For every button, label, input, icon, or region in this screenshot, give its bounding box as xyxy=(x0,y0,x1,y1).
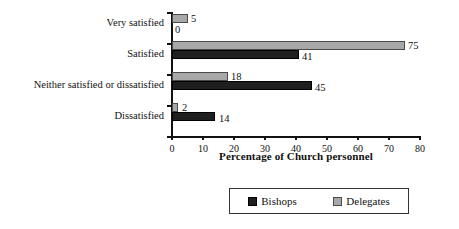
x-axis-title: Percentage of Church personnel xyxy=(172,150,420,162)
x-axis-tick xyxy=(357,136,359,140)
x-axis-tick xyxy=(326,136,328,140)
x-axis-tick xyxy=(295,136,297,140)
plot-area: 5 0 75 41 18 45 2 14 0 10 20 30 40 50 60… xyxy=(172,12,420,136)
chart-legend: Bishops Delegates xyxy=(229,188,409,214)
legend-label-bishops: Bishops xyxy=(261,195,296,207)
category-axis-labels: Very satisfied Satisfied Neither satisfi… xyxy=(0,12,168,136)
category-label-very-satisfied: Very satisfied xyxy=(107,17,164,28)
bar-value-bishops-dissatisfied: 14 xyxy=(219,114,230,124)
bar-bishops-neither xyxy=(172,81,312,90)
bar-delegates-neither xyxy=(172,72,228,81)
bar-bishops-dissatisfied xyxy=(172,112,215,121)
x-axis-tick xyxy=(388,136,390,140)
bar-value-delegates-satisfied: 75 xyxy=(408,41,419,51)
x-axis-tick xyxy=(264,136,266,140)
satisfaction-bar-chart: Very satisfied Satisfied Neither satisfi… xyxy=(0,0,459,229)
bar-bishops-satisfied xyxy=(172,50,299,59)
category-label-neither: Neither satisfied or dissatisfied xyxy=(34,79,164,90)
legend-entry-delegates: Delegates xyxy=(333,195,389,207)
bar-delegates-satisfied xyxy=(172,41,405,50)
bar-delegates-dissatisfied xyxy=(172,103,178,112)
legend-swatch-bishops xyxy=(248,197,257,206)
bar-value-bishops-neither: 45 xyxy=(315,83,326,93)
bar-value-bishops-very-satisfied: 0 xyxy=(175,25,180,35)
bar-delegates-very-satisfied xyxy=(172,14,188,23)
legend-label-delegates: Delegates xyxy=(346,195,389,207)
x-axis-tick xyxy=(202,136,204,140)
bar-value-delegates-very-satisfied: 5 xyxy=(191,14,196,24)
x-axis-tick xyxy=(419,136,421,140)
x-axis-tick xyxy=(171,136,173,140)
category-label-satisfied: Satisfied xyxy=(127,48,164,59)
category-label-dissatisfied: Dissatisfied xyxy=(114,110,164,121)
x-axis-tick xyxy=(233,136,235,140)
legend-swatch-delegates xyxy=(333,197,342,206)
legend-entry-bishops: Bishops xyxy=(248,195,296,207)
bar-value-bishops-satisfied: 41 xyxy=(302,52,313,62)
